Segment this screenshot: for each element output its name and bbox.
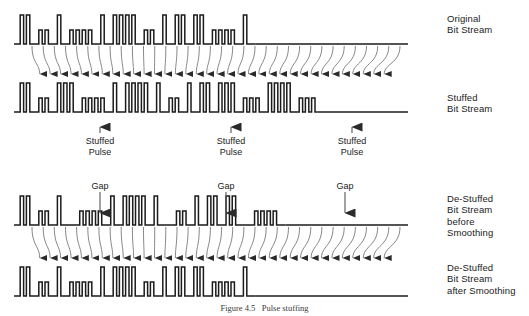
waveform-stuffed (14, 83, 408, 112)
mapping-arrows-bottom (32, 227, 400, 258)
waveform-original (14, 15, 408, 44)
waveform-destuffed-after (14, 267, 408, 296)
label-stuffed-bit-stream: Stuffed Bit Stream (447, 92, 492, 115)
annotation-stuffed-pulse-3: Stuffed Pulse (312, 136, 392, 157)
mapping-arrows-top (32, 46, 400, 74)
annotation-gap-1: Gap (60, 181, 140, 192)
figure-caption: Figure 4.5 Pulse stuffing (0, 303, 529, 316)
annotation-gap-2: Gap (186, 181, 266, 192)
label-destuffed-before-smoothing: De-Stuffed Bit Stream before Smoothing (447, 193, 493, 239)
label-original-bit-stream: Original Bit Stream (447, 13, 492, 36)
label-destuffed-after-smoothing: De-Stuffed Bit Stream after Smoothing (447, 262, 516, 296)
diagram-canvas: Original Bit Stream Stuffed Bit Stream D… (0, 0, 529, 316)
annotation-gap-3: Gap (305, 181, 385, 192)
waveform-destuffed-before (14, 196, 408, 225)
annotation-stuffed-pulse-1: Stuffed Pulse (60, 136, 140, 157)
annotation-stuffed-pulse-2: Stuffed Pulse (191, 136, 271, 157)
